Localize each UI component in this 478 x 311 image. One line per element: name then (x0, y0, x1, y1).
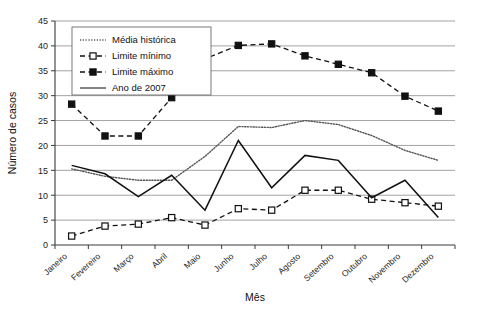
data-point-marker (69, 101, 75, 107)
x-axis-category-label: Janeiro (42, 251, 70, 277)
legend: Média históricaLimite mínimoLimite máxim… (72, 27, 211, 95)
data-point-marker (335, 61, 341, 67)
data-point-marker (269, 207, 275, 213)
x-axis-category-label: Dezembro (400, 251, 436, 285)
data-point-marker (435, 108, 441, 114)
x-category-labels-group: JaneiroFevereiroMarçoAbrilMaioJunhoJulho… (42, 251, 436, 285)
data-point-marker (102, 223, 108, 229)
y-axis-ticks-group: 051015202530354045 (38, 16, 55, 250)
y-axis-tick-label: 35 (38, 66, 48, 76)
chart-container: 051015202530354045 JaneiroFevereiroMarço… (0, 0, 478, 311)
y-axis-tick-label: 10 (38, 191, 48, 201)
x-axis-category-label: Junho (212, 251, 236, 274)
data-point-marker (135, 221, 141, 227)
x-axis-category-label: Agosto (276, 251, 303, 276)
data-point-marker (135, 133, 141, 139)
data-point-marker (202, 222, 208, 228)
legend-swatch-marker (90, 53, 96, 59)
y-axis-tick-label: 20 (38, 141, 48, 151)
x-axis-category-label: Julho (247, 251, 269, 272)
data-point-marker (402, 93, 408, 99)
line-chart: 051015202530354045 JaneiroFevereiroMarço… (0, 0, 478, 311)
legend-entry-label: Ano de 2007 (112, 82, 166, 93)
legend-swatch-marker (90, 69, 96, 75)
y-axis-tick-label: 5 (43, 215, 48, 225)
x-axis-category-label: Outubro (339, 251, 369, 279)
x-axis-category-label: Novembro (367, 251, 403, 285)
data-point-marker (302, 53, 308, 59)
data-point-marker (369, 70, 375, 76)
x-axis-category-label: Abril (150, 251, 169, 270)
x-axis-title: Mês (245, 291, 265, 303)
x-axis-ticks-group (55, 245, 455, 249)
data-point-marker (269, 41, 275, 47)
y-axis-tick-label: 0 (43, 240, 48, 250)
x-axis-category-label: Setembro (302, 251, 336, 283)
data-point-marker (169, 95, 175, 101)
data-point-marker (235, 206, 241, 212)
y-axis-title: Número de casos (6, 92, 18, 174)
y-axis-tick-label: 40 (38, 41, 48, 51)
data-point-marker (169, 215, 175, 221)
legend-entry-label: Média histórica (112, 34, 177, 45)
y-axis-tick-label: 15 (38, 166, 48, 176)
y-axis-tick-label: 45 (38, 16, 48, 26)
legend-entry-label: Limite mínimo (112, 50, 171, 61)
data-point-marker (69, 233, 75, 239)
y-axis-tick-label: 25 (38, 116, 48, 126)
data-point-marker (402, 200, 408, 206)
data-point-marker (435, 203, 441, 209)
y-axis-tick-label: 30 (38, 91, 48, 101)
x-axis-category-label: Março (111, 251, 135, 274)
x-axis-category-label: Fevereiro (69, 251, 103, 283)
x-axis-category-label: Maio (182, 251, 203, 271)
data-point-marker (335, 187, 341, 193)
legend-entry-label: Limite máximo (112, 66, 173, 77)
data-point-marker (235, 42, 241, 48)
data-point-marker (102, 133, 108, 139)
data-point-marker (302, 187, 308, 193)
